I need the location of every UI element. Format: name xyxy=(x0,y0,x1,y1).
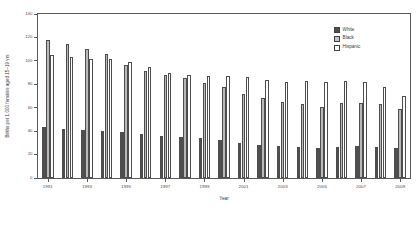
bar-group xyxy=(58,14,78,178)
legend-swatch-icon xyxy=(334,36,340,42)
bar xyxy=(383,87,386,178)
bar xyxy=(363,82,366,178)
bar-group xyxy=(77,14,97,178)
y-tick-label: 60 xyxy=(28,105,33,109)
bar xyxy=(164,75,167,178)
x-tick-mark xyxy=(48,179,49,182)
bar xyxy=(297,147,300,178)
bar-group xyxy=(97,14,117,178)
bar xyxy=(394,148,397,178)
bar xyxy=(320,107,323,178)
bar-group xyxy=(390,14,410,178)
bar xyxy=(42,127,45,178)
bar xyxy=(160,136,163,178)
legend-label: White xyxy=(343,28,355,33)
x-tick-mark xyxy=(87,179,88,182)
bar-group xyxy=(234,14,254,178)
bar-group xyxy=(136,14,156,178)
bar-group xyxy=(273,14,293,178)
x-tick-mark xyxy=(322,179,323,182)
x-tick-label: 1993 xyxy=(82,184,92,189)
x-tick-mark xyxy=(361,179,362,182)
bar xyxy=(144,71,147,178)
x-axis-title: Year xyxy=(38,196,410,201)
legend-swatch-icon xyxy=(334,27,340,33)
bar xyxy=(66,44,69,178)
bar xyxy=(101,131,104,178)
y-tick-label: 140 xyxy=(25,12,32,16)
bar-group xyxy=(253,14,273,178)
x-axis-labels: 1991199319951997199920012003200520072009 xyxy=(38,184,410,194)
bar xyxy=(246,77,249,178)
bar-group xyxy=(38,14,58,178)
bar xyxy=(379,104,382,178)
bar xyxy=(305,81,308,178)
bar xyxy=(89,59,92,178)
legend-label: Hispanic xyxy=(343,45,361,50)
bar xyxy=(168,73,171,178)
bar xyxy=(324,82,327,178)
bar xyxy=(242,94,245,178)
bar xyxy=(46,40,49,178)
x-tick-mark xyxy=(283,179,284,182)
bar xyxy=(222,87,225,178)
bar xyxy=(402,96,405,178)
bar xyxy=(218,140,221,178)
x-tick-mark xyxy=(204,179,205,182)
x-tick-label: 1997 xyxy=(160,184,170,189)
bar xyxy=(105,54,108,178)
y-axis-title: Births per 1,000 females aged 15–19 yrs xyxy=(2,13,12,179)
bar xyxy=(281,102,284,178)
bar xyxy=(226,76,229,178)
bar xyxy=(398,109,401,178)
bar xyxy=(124,65,127,178)
bar xyxy=(207,76,210,178)
x-tick-mark xyxy=(165,179,166,182)
bar-group xyxy=(195,14,215,178)
bar xyxy=(187,75,190,178)
x-tick-label: 2007 xyxy=(356,184,366,189)
legend-item: Black xyxy=(334,36,360,42)
bar xyxy=(128,62,131,178)
legend-item: Hispanic xyxy=(334,45,360,51)
bar xyxy=(265,80,268,178)
bar xyxy=(50,55,53,178)
bar-group xyxy=(175,14,195,178)
bar xyxy=(277,146,280,178)
bar xyxy=(344,81,347,178)
x-tick-label: 1995 xyxy=(121,184,131,189)
bar xyxy=(120,132,123,178)
bar xyxy=(285,82,288,178)
bar xyxy=(301,104,304,178)
x-tick-label: 1999 xyxy=(199,184,209,189)
bar xyxy=(336,147,339,178)
x-tick-mark xyxy=(244,179,245,182)
bar xyxy=(62,129,65,178)
x-tick-label: 2009 xyxy=(395,184,405,189)
bar xyxy=(70,57,73,178)
y-tick-label: 20 xyxy=(28,152,33,156)
bar-group xyxy=(312,14,332,178)
bar xyxy=(261,98,264,178)
bar xyxy=(81,130,84,178)
legend-label: Black xyxy=(343,36,354,41)
bar xyxy=(148,67,151,178)
y-tick-label: 0 xyxy=(30,176,33,180)
x-tick-label: 2001 xyxy=(239,184,249,189)
bar xyxy=(179,137,182,178)
bar-group xyxy=(155,14,175,178)
bar xyxy=(359,103,362,178)
y-tick-label: 100 xyxy=(25,59,32,63)
y-tick-label: 40 xyxy=(28,129,33,133)
bar xyxy=(109,59,112,178)
bar-group xyxy=(214,14,234,178)
x-tick-label: 2005 xyxy=(317,184,327,189)
y-tick-label: 80 xyxy=(28,82,33,86)
bar xyxy=(140,134,143,178)
y-tick-label: 120 xyxy=(25,35,32,39)
x-tick-label: 1991 xyxy=(43,184,53,189)
bar xyxy=(183,78,186,178)
bar xyxy=(340,103,343,178)
bar-group xyxy=(293,14,313,178)
bar-group xyxy=(116,14,136,178)
